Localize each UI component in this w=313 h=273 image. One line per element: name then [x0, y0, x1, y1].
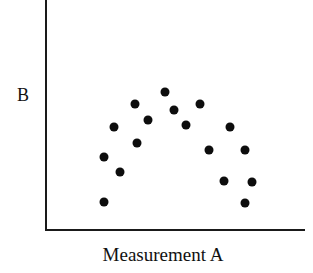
data-point — [133, 139, 142, 148]
data-point — [220, 177, 229, 186]
data-point — [144, 116, 153, 125]
data-point — [161, 88, 170, 97]
scatter-plot-figure: B Measurement A — [0, 0, 313, 273]
y-axis-label: B — [10, 84, 36, 106]
data-point — [182, 121, 191, 130]
plot-area — [0, 0, 313, 231]
data-point — [241, 146, 250, 155]
data-point — [100, 153, 109, 162]
data-point — [100, 198, 109, 207]
data-point — [226, 123, 235, 132]
data-point — [205, 146, 214, 155]
data-point — [196, 100, 205, 109]
data-point — [248, 178, 257, 187]
data-point — [131, 100, 140, 109]
x-axis-label: Measurement A — [45, 243, 281, 267]
data-point — [110, 123, 119, 132]
data-point — [170, 106, 179, 115]
data-point — [241, 199, 250, 208]
data-point — [116, 168, 125, 177]
